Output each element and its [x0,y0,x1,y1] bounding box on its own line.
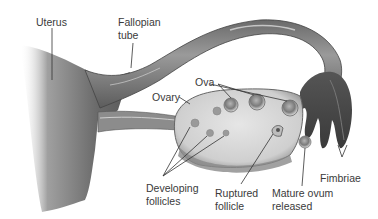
label-mature-ovum-line2: released [272,200,312,212]
label-fallopian-tube-line2: tube [118,29,138,41]
ovum [249,94,265,110]
ovary-shape [174,89,302,173]
label-ovary: Ovary [152,91,180,103]
label-developing-follicles-line2: follicles [146,195,180,207]
label-fallopian-tube-line1: Fallopian [118,16,161,28]
label-ruptured-follicle-line1: Ruptured [215,187,258,199]
ovum [224,98,238,112]
ovum [282,100,298,116]
label-ruptured-follicle-line2: follicle [215,200,244,212]
label-ova: Ova [195,76,214,88]
developing-follicle [223,130,229,136]
label-developing-follicles-line1: Developing [146,182,199,194]
developing-follicle [191,119,199,127]
label-fimbriae: Fimbriae [320,172,361,184]
label-mature-ovum-line1: Mature ovum [272,187,333,199]
label-uterus: Uterus [36,16,67,28]
developing-follicle [213,107,221,115]
mature-ovum-released [299,136,311,148]
developing-follicle [207,130,214,137]
ovarian-ligament-shape [98,111,178,132]
